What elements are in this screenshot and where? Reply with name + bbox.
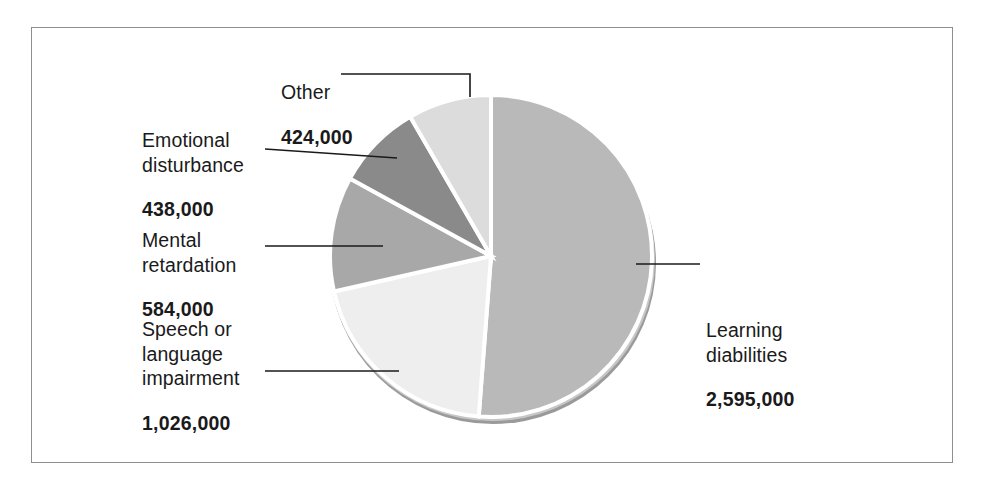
callout-label-other-name: Other: [281, 80, 441, 105]
callout-label-learning-diabilities-value: 2,595,000: [706, 387, 926, 412]
callout-label-emotional-disturbance-name: Emotional disturbance: [142, 128, 342, 177]
callout-label-learning-diabilities: Learning diabilities 2,595,000: [706, 298, 926, 432]
pie-chart-stage: Other 424,000 Emotional disturbance 438,…: [0, 0, 984, 494]
callout-label-speech-impairment-value: 1,026,000: [142, 411, 352, 436]
callout-label-learning-diabilities-name: Learning diabilities: [706, 318, 926, 367]
callout-label-speech-impairment: Speech or language impairment 1,026,000: [142, 297, 352, 456]
pie-slice-learning-diabilities[interactable]: [479, 95, 652, 417]
callout-label-speech-impairment-name: Speech or language impairment: [142, 317, 352, 391]
callout-label-mental-retardation-name: Mental retardation: [142, 228, 342, 277]
